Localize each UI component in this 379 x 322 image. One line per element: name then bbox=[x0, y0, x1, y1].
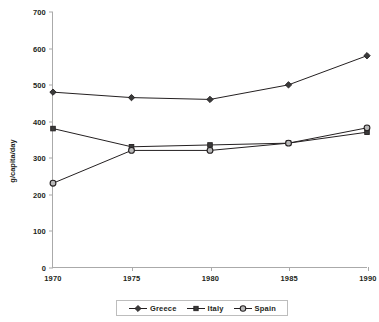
x-tick-label: 1970 bbox=[44, 274, 62, 283]
legend-entry-greece: Greece bbox=[128, 304, 177, 313]
data-point-circle-marker bbox=[286, 140, 292, 146]
data-point-circle-marker bbox=[240, 305, 246, 311]
x-tick-label: 1980 bbox=[202, 274, 220, 283]
data-point-diamond-marker bbox=[364, 53, 370, 59]
legend-entry-italy: Italy bbox=[186, 304, 224, 313]
legend-square-icon bbox=[186, 304, 206, 313]
chart-legend: GreeceItalySpain bbox=[116, 300, 288, 316]
series-layer bbox=[53, 12, 367, 267]
y-tick-mark bbox=[49, 268, 53, 269]
x-tick-mark bbox=[211, 267, 212, 271]
legend-circle-icon bbox=[233, 304, 253, 313]
data-point-diamond-marker bbox=[207, 96, 213, 102]
data-point-circle-marker bbox=[364, 125, 370, 131]
y-axis-title: g/capita/day bbox=[8, 106, 17, 216]
legend-label: Greece bbox=[150, 304, 177, 313]
series-line bbox=[53, 56, 367, 100]
series-italy bbox=[51, 126, 370, 149]
data-point-circle-marker bbox=[50, 180, 56, 186]
legend-entry-spain: Spain bbox=[233, 304, 276, 313]
data-point-circle-marker bbox=[129, 148, 135, 154]
data-point-diamond-marker bbox=[50, 89, 56, 95]
legend-label: Spain bbox=[255, 304, 276, 313]
data-point-square-marker bbox=[51, 126, 56, 131]
data-point-diamond-marker bbox=[128, 94, 134, 100]
x-tick-label: 1990 bbox=[359, 274, 377, 283]
series-greece bbox=[50, 53, 370, 103]
data-point-circle-marker bbox=[207, 148, 213, 154]
plot-area: 0100200300400500600700 19701975198019851… bbox=[52, 12, 367, 268]
legend-diamond-icon bbox=[128, 304, 148, 313]
legend-label: Italy bbox=[208, 304, 224, 313]
x-tick-mark bbox=[368, 267, 369, 271]
series-spain bbox=[50, 125, 370, 186]
line-chart: g/capita/day 0100200300400500600700 1970… bbox=[0, 0, 379, 322]
x-tick-mark bbox=[289, 267, 290, 271]
data-point-square-marker bbox=[193, 306, 197, 310]
data-point-diamond-marker bbox=[285, 82, 291, 88]
data-point-diamond-marker bbox=[135, 305, 141, 311]
x-tick-label: 1985 bbox=[281, 274, 299, 283]
data-point-square-marker bbox=[208, 143, 213, 148]
x-tick-label: 1975 bbox=[123, 274, 141, 283]
x-tick-mark bbox=[132, 267, 133, 271]
series-line bbox=[53, 128, 367, 183]
